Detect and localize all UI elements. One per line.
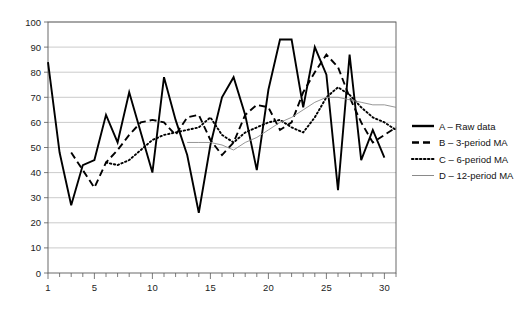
y-tick-label: 100 bbox=[25, 17, 41, 28]
x-tick-label: 1 bbox=[45, 282, 50, 293]
data-series bbox=[48, 40, 396, 213]
x-tick-label: 30 bbox=[379, 282, 390, 293]
y-tick-label: 90 bbox=[30, 42, 41, 53]
y-tick-label: 80 bbox=[30, 67, 41, 78]
y-tick-label: 60 bbox=[30, 117, 41, 128]
x-axis-tick-labels: 151015202530 bbox=[45, 282, 389, 293]
y-tick-label: 40 bbox=[30, 167, 41, 178]
chart-container: 0102030405060708090100 151015202530 A – … bbox=[0, 0, 531, 318]
x-tick-label: 10 bbox=[147, 282, 158, 293]
y-axis-tick-labels: 0102030405060708090100 bbox=[25, 17, 41, 279]
x-tick-label: 20 bbox=[263, 282, 274, 293]
series-line-C bbox=[106, 87, 396, 165]
y-tick-label: 50 bbox=[30, 142, 41, 153]
chart-legend: A – Raw dataB – 3-period MAC – 6-period … bbox=[412, 121, 514, 182]
y-tick-label: 20 bbox=[30, 217, 41, 228]
line-chart: 0102030405060708090100 151015202530 A – … bbox=[0, 0, 531, 318]
y-tick-label: 70 bbox=[30, 92, 41, 103]
y-tick-label: 0 bbox=[36, 268, 41, 279]
legend-item-label: A – Raw data bbox=[439, 121, 496, 132]
legend-item-label: D – 12-period MA bbox=[439, 170, 514, 181]
series-line-D bbox=[187, 97, 396, 150]
y-tick-label: 30 bbox=[30, 192, 41, 203]
y-tick-label: 10 bbox=[30, 242, 41, 253]
x-tick-label: 5 bbox=[92, 282, 97, 293]
legend-item-label: C – 6-period MA bbox=[439, 154, 509, 165]
x-tick-label: 25 bbox=[321, 282, 332, 293]
x-tick-label: 15 bbox=[205, 282, 216, 293]
legend-item-label: B – 3-period MA bbox=[439, 137, 508, 148]
